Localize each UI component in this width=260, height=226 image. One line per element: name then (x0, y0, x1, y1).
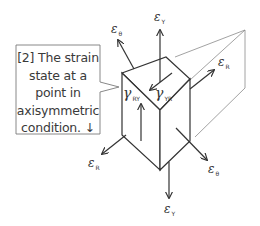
callout-line: axisymmetric (16, 102, 100, 120)
label-eps-theta-bottom: εθ (208, 163, 219, 180)
subscript: Y (161, 18, 165, 25)
label-gamma-ry: γRY (123, 87, 140, 105)
callout-line: state at a (16, 67, 100, 85)
subscript: YR (164, 95, 172, 102)
epsilon-symbol: ε (88, 156, 94, 170)
callout-text: [2] The strain state at a point in axisy… (16, 45, 100, 134)
epsilon-symbol: ε (218, 55, 224, 69)
arrow-eps-r-left (102, 135, 126, 154)
label-eps-theta-top: εθ (111, 23, 122, 40)
label-eps-y-bottom: εY (164, 203, 175, 220)
label-gamma-yr: γYR (155, 87, 172, 105)
arrow-eps-theta-top (118, 40, 134, 69)
label-eps-y-top: εY (154, 11, 165, 28)
subscript: θ (118, 30, 122, 37)
epsilon-symbol: ε (208, 162, 214, 176)
strain-diagram: [2] The strain state at a point in axisy… (0, 0, 260, 226)
element-cube (122, 57, 190, 170)
label-eps-r-left: εR (88, 157, 100, 174)
epsilon-symbol: ε (111, 22, 117, 36)
subscript: RY (132, 95, 139, 102)
gamma-symbol: γ (155, 85, 163, 101)
epsilon-symbol: ε (164, 202, 170, 216)
subscript: Y (171, 210, 175, 217)
label-eps-r-right: εR (218, 56, 230, 73)
callout-line: condition. ↓ (16, 119, 100, 137)
subscript: R (95, 164, 99, 171)
callout-line: [2] The strain (16, 49, 100, 67)
callout-line: point in (16, 84, 100, 102)
epsilon-symbol: ε (154, 10, 160, 24)
gamma-symbol: γ (123, 85, 131, 101)
subscript: R (225, 63, 229, 70)
arrow-eps-r-right (190, 70, 214, 89)
subscript: θ (215, 170, 219, 177)
